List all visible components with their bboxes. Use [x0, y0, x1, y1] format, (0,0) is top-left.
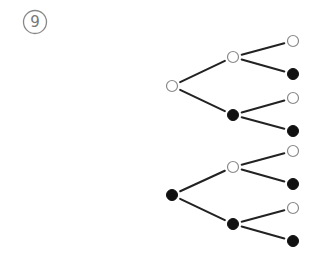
tree-0-edge	[242, 100, 285, 112]
tree-1-edge	[242, 210, 285, 221]
tree-0-leaf-open-circle-icon	[288, 93, 299, 104]
tree-1-leaf-open-circle-icon	[288, 203, 299, 214]
tree-0-edge	[242, 43, 285, 54]
tree-0-branch-filled-circle-icon	[228, 110, 239, 121]
tree-0-leaf-filled-circle-icon	[288, 126, 299, 137]
tree-0-edge	[242, 59, 285, 71]
tree-0-leaf-filled-circle-icon	[288, 69, 299, 80]
tree-1-edge	[242, 226, 285, 238]
tree-1-root-filled-circle-icon	[167, 190, 178, 201]
tree-0-leaf-open-circle-icon	[288, 36, 299, 47]
tree-1-edge	[242, 153, 285, 164]
tree-1-edge	[180, 199, 225, 220]
tree-1-leaf-filled-circle-icon	[288, 236, 299, 247]
tree-1-leaf-filled-circle-icon	[288, 179, 299, 190]
tree-0-edge	[180, 61, 225, 82]
tree-0-edge	[180, 90, 225, 111]
tree-0-edge	[242, 117, 285, 128]
tree-1-edge	[242, 169, 285, 181]
tree-1-branch-open-circle-icon	[228, 162, 239, 173]
tree-diagram	[0, 0, 326, 262]
tree-0-root-open-circle-icon	[167, 81, 178, 92]
tree-1-leaf-open-circle-icon	[288, 146, 299, 157]
tree-1-edge	[180, 171, 225, 191]
tree-1-branch-filled-circle-icon	[228, 219, 239, 230]
tree-0-branch-open-circle-icon	[228, 52, 239, 63]
